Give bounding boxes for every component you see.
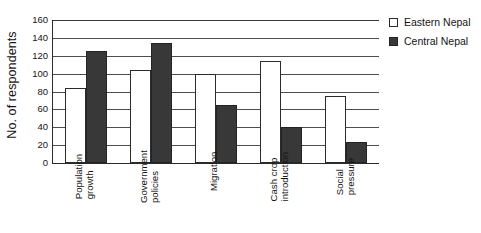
x-axis-tick-label-text: Government policies xyxy=(139,150,160,203)
bar-group xyxy=(314,20,379,163)
x-axis-tick-labels: Population growthGovernment policiesMigr… xyxy=(52,166,378,233)
y-axis-tick-label: 140 xyxy=(22,33,48,43)
bar-chart: No. of respondents 160140120100806040200… xyxy=(0,0,481,233)
x-axis-tick-label-text: Population growth xyxy=(74,154,95,199)
x-axis-tick-label: Cash crop introduction xyxy=(248,166,313,232)
y-axis-tick-label: 0 xyxy=(22,158,48,168)
x-axis-tick-label-text: Social pressure xyxy=(335,158,356,195)
legend-label-central-nepal: Central Nepal xyxy=(404,36,468,47)
y-axis-tick-label: 20 xyxy=(22,140,48,150)
bars-layer xyxy=(53,20,379,163)
filled-square-swatch-icon xyxy=(389,37,398,46)
bar-central-nepal xyxy=(151,43,172,163)
x-axis-tick-label-text: Migration xyxy=(210,152,221,191)
y-axis-title: No. of respondents xyxy=(0,0,24,170)
bar-group xyxy=(249,20,314,163)
open-square-swatch-icon xyxy=(389,18,398,27)
y-axis-tick-labels: 160140120100806040200 xyxy=(22,14,48,166)
bar-group xyxy=(183,20,248,163)
x-axis-tick-label: Government policies xyxy=(117,166,182,232)
y-axis-title-text: No. of respondents xyxy=(5,31,19,138)
legend-item-central-nepal: Central Nepal xyxy=(389,36,481,47)
y-axis-tick-label: 40 xyxy=(22,122,48,132)
y-axis-tick-label: 160 xyxy=(22,15,48,25)
legend-label-eastern-nepal: Eastern Nepal xyxy=(404,17,471,28)
y-axis-tick-label: 60 xyxy=(22,104,48,114)
bar-group xyxy=(53,20,118,163)
y-axis-tick-label: 100 xyxy=(22,69,48,79)
x-axis-tick-label-text: Cash crop introduction xyxy=(270,152,291,202)
x-axis-tick-label: Population growth xyxy=(52,166,117,232)
bar-eastern-nepal xyxy=(195,74,216,163)
y-axis-tick-label: 120 xyxy=(22,51,48,61)
bar-central-nepal xyxy=(86,51,107,163)
bar-eastern-nepal xyxy=(260,61,281,163)
bar-eastern-nepal xyxy=(65,88,86,163)
bar-group xyxy=(118,20,183,163)
chart-legend: Eastern Nepal Central Nepal xyxy=(389,17,481,55)
legend-item-eastern-nepal: Eastern Nepal xyxy=(389,17,481,28)
x-axis-tick-label: Migration xyxy=(182,166,247,232)
plot-area xyxy=(52,20,379,164)
bar-eastern-nepal xyxy=(325,96,346,163)
x-axis-tick-label: Social pressure xyxy=(313,166,378,232)
y-axis-tick-label: 80 xyxy=(22,87,48,97)
